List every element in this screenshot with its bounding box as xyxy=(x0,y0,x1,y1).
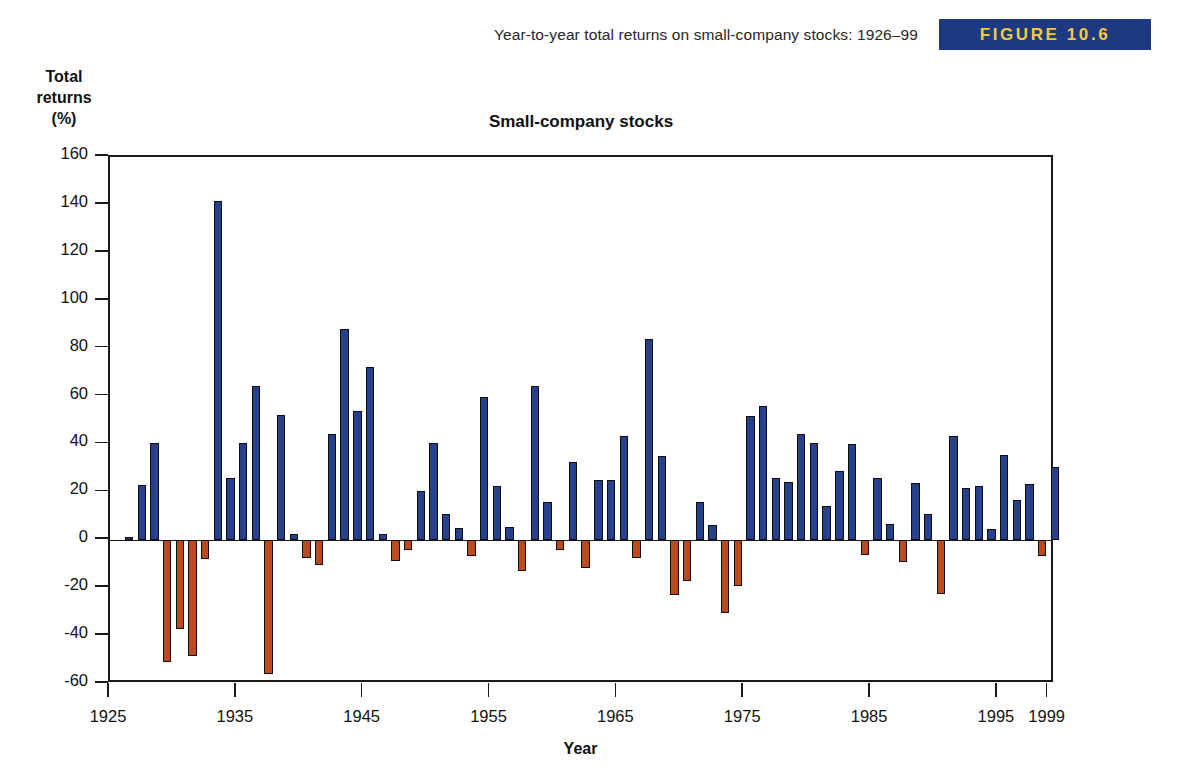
bar xyxy=(848,444,856,540)
bar xyxy=(708,525,716,541)
page-bottom-artifact xyxy=(10,774,1170,780)
bar xyxy=(264,540,272,674)
figure-page: Year-to-year total returns on small-comp… xyxy=(0,0,1177,782)
bar xyxy=(924,514,932,540)
bar xyxy=(125,537,133,541)
bar xyxy=(518,540,526,571)
chart-title: Small-company stocks xyxy=(108,112,1054,132)
bar xyxy=(1000,455,1008,540)
x-tick-label: 1985 xyxy=(834,707,904,726)
bar xyxy=(442,514,450,540)
y-tick-mark xyxy=(95,585,108,587)
bar xyxy=(911,483,919,540)
bar xyxy=(277,415,285,541)
x-tick-mark xyxy=(995,683,997,697)
bar xyxy=(822,506,830,541)
bar xyxy=(328,434,336,541)
bar xyxy=(975,486,983,540)
bar xyxy=(607,480,615,540)
bar xyxy=(696,502,704,540)
bar xyxy=(772,478,780,540)
bar xyxy=(861,540,869,554)
bar xyxy=(150,443,158,540)
bar xyxy=(746,416,754,541)
x-axis-title: Year xyxy=(108,740,1053,758)
bar xyxy=(138,485,146,540)
bar xyxy=(873,478,881,540)
bar xyxy=(290,534,298,540)
y-tick-label: -20 xyxy=(30,575,88,594)
bar xyxy=(226,478,234,540)
bar xyxy=(353,411,361,540)
bar xyxy=(201,540,209,559)
bar xyxy=(379,534,387,540)
figure-number-badge: FIGURE 10.6 xyxy=(939,19,1151,50)
bar xyxy=(214,201,222,540)
bar xyxy=(1025,484,1033,540)
bar xyxy=(620,436,628,540)
y-tick-mark xyxy=(95,346,108,348)
bar xyxy=(429,443,437,540)
bar xyxy=(886,524,894,541)
figure-number-label: FIGURE 10.6 xyxy=(980,26,1111,43)
bar xyxy=(569,462,577,540)
y-tick-label: 40 xyxy=(30,431,88,450)
bar xyxy=(962,488,970,541)
bar xyxy=(594,480,602,540)
bar xyxy=(1051,467,1059,540)
x-tick-mark xyxy=(488,683,490,697)
bar xyxy=(163,540,171,662)
y-tick-label: 80 xyxy=(30,336,88,355)
bar xyxy=(188,540,196,656)
bar xyxy=(366,367,374,541)
bar xyxy=(417,491,425,540)
bar xyxy=(340,329,348,540)
y-tick-mark xyxy=(95,250,108,252)
x-tick-label: 1975 xyxy=(707,707,777,726)
y-axis-caption: Total returns (%) xyxy=(18,66,110,129)
x-tick-mark xyxy=(361,683,363,697)
y-tick-mark xyxy=(95,154,108,156)
plot-area xyxy=(108,155,1053,682)
bar xyxy=(531,386,539,541)
bar xyxy=(455,528,463,540)
y-tick-label: 120 xyxy=(30,240,88,259)
bar xyxy=(899,540,907,562)
bar xyxy=(467,540,475,556)
bar xyxy=(176,540,184,629)
y-axis-caption-line-1: Total xyxy=(18,66,110,87)
x-tick-mark xyxy=(868,683,870,697)
bar xyxy=(239,443,247,540)
y-tick-mark xyxy=(95,633,108,635)
y-tick-label: 0 xyxy=(30,527,88,546)
bar xyxy=(1013,500,1021,541)
y-tick-label: -60 xyxy=(30,671,88,690)
bar xyxy=(315,540,323,565)
bar xyxy=(835,471,843,540)
bar xyxy=(632,540,640,558)
x-tick-mark xyxy=(107,683,109,697)
y-tick-mark xyxy=(95,490,108,492)
bar xyxy=(987,529,995,540)
bar xyxy=(937,540,945,594)
y-tick-mark xyxy=(95,442,108,444)
bar xyxy=(302,540,310,558)
y-tick-label: -40 xyxy=(30,623,88,642)
bar xyxy=(581,540,589,568)
x-tick-label: 1999 xyxy=(1012,707,1082,726)
bar xyxy=(810,443,818,540)
y-tick-mark xyxy=(95,202,108,204)
bar xyxy=(658,456,666,540)
bar xyxy=(949,436,957,540)
figure-caption: Year-to-year total returns on small-comp… xyxy=(338,26,918,44)
bar xyxy=(480,397,488,541)
bar xyxy=(721,540,729,613)
x-tick-label: 1945 xyxy=(327,707,397,726)
bar xyxy=(670,540,678,595)
bar xyxy=(493,486,501,540)
x-tick-mark xyxy=(741,683,743,697)
y-tick-label: 160 xyxy=(30,144,88,163)
x-tick-mark xyxy=(1046,683,1048,697)
bar xyxy=(556,540,564,550)
y-tick-label: 140 xyxy=(30,192,88,211)
